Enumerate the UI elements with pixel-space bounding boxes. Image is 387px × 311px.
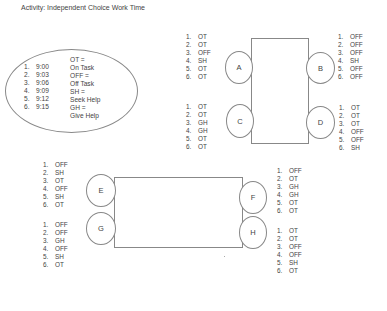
key-line: On Task — [70, 64, 100, 72]
obs-num: 5. — [277, 199, 289, 207]
scan-speck — [224, 256, 225, 257]
obs-code: OT — [289, 227, 298, 235]
seat-d: D — [306, 106, 335, 139]
obs-code: OT — [55, 201, 64, 209]
obs-num: 5. — [186, 65, 198, 73]
obs-code: SH — [55, 253, 64, 261]
obs-num: 6. — [186, 73, 198, 81]
obs-num: 6. — [186, 143, 198, 151]
obs-code: OT — [289, 199, 298, 207]
seat-h: H — [239, 216, 267, 249]
obs-num: 2. — [186, 41, 198, 49]
obs-num: 2. — [277, 175, 289, 183]
obs-code: SH — [350, 57, 359, 65]
obs-num: 3. — [277, 183, 289, 191]
time-row: 5.9:12 — [24, 95, 49, 103]
obs-code: SH — [55, 193, 64, 201]
obs-num: 6. — [43, 261, 55, 269]
obs-code: OFF — [350, 73, 363, 81]
obs-num: 3. — [338, 49, 350, 57]
time-num: 4. — [24, 87, 36, 95]
obs-code: OT — [289, 267, 298, 275]
time-row: 1.9:00 — [24, 63, 49, 71]
activity-title: Activity: Independent Choice Work Time — [21, 4, 145, 11]
obs-num: 3. — [186, 49, 198, 57]
obs-num: 4. — [186, 57, 198, 65]
time-num: 1. — [24, 63, 36, 71]
obs-code: SH — [351, 144, 360, 152]
obs-num: 4. — [43, 245, 55, 253]
obs-code: OFF — [351, 128, 364, 136]
obs-code: OT — [198, 73, 207, 81]
obs-code: OT — [351, 112, 360, 120]
time-value: 9:09 — [36, 87, 49, 95]
time-intervals-list: 1.9:00 2.9:03 3.9:06 4.9:09 5.9:12 6.9:1… — [24, 63, 49, 111]
obs-num: 1. — [339, 104, 351, 112]
obs-num: 4. — [277, 191, 289, 199]
obs-num: 2. — [338, 41, 350, 49]
obs-code: OT — [289, 175, 298, 183]
key-line: OFF = — [70, 72, 100, 80]
obs-code: OT — [198, 135, 207, 143]
obs-code: GH — [289, 191, 299, 199]
time-num: 3. — [24, 79, 36, 87]
obs-code: GH — [198, 127, 208, 135]
obs-code: OT — [198, 143, 207, 151]
obs-code: OT — [351, 104, 360, 112]
obs-code: OT — [351, 120, 360, 128]
obs-num: 2. — [339, 112, 351, 120]
obs-code: OFF — [55, 245, 68, 253]
obs-num: 4. — [339, 128, 351, 136]
obs-code: GH — [198, 119, 208, 127]
obs-num: 5. — [43, 193, 55, 201]
obs-num: 6. — [339, 144, 351, 152]
time-value: 9:12 — [36, 95, 49, 103]
obs-num: 2. — [277, 235, 289, 243]
obs-num: 3. — [43, 237, 55, 245]
obs-num: 1. — [43, 221, 55, 229]
obs-code: GH — [55, 237, 65, 245]
time-value: 9:15 — [36, 103, 49, 111]
time-value: 9:00 — [36, 63, 49, 71]
table-2 — [114, 177, 243, 248]
obs-num: 1. — [186, 103, 198, 111]
obs-code: SH — [289, 259, 298, 267]
obs-num: 6. — [277, 207, 289, 215]
code-key: OT = On Task OFF = Off Task SH = Seek He… — [70, 56, 100, 120]
time-num: 5. — [24, 95, 36, 103]
obs-num: 5. — [277, 259, 289, 267]
obs-code: OT — [198, 41, 207, 49]
seat-g: G — [86, 212, 116, 245]
obs-list-h: 1.OT 2.OT 3.OFF 4.OFF 5.SH 6.OT — [277, 227, 302, 275]
obs-num: 6. — [43, 201, 55, 209]
obs-code: OT — [289, 207, 298, 215]
key-line: Give Help — [70, 112, 100, 120]
obs-code: OT — [55, 177, 64, 185]
obs-list-g: 1.OFF 2.OFF 3.GH 4.OFF 5.SH 6.OT — [43, 221, 68, 269]
obs-num: 3. — [186, 119, 198, 127]
obs-code: OT — [55, 261, 64, 269]
seat-f: F — [239, 181, 267, 214]
obs-list-c: 1.OT 2.OT 3.GH 4.GH 5.OT 6.OT — [186, 103, 208, 151]
time-row: 4.9:09 — [24, 87, 49, 95]
obs-num: 5. — [339, 136, 351, 144]
key-line: OT = — [70, 56, 100, 64]
obs-num: 1. — [186, 33, 198, 41]
time-value: 9:03 — [36, 71, 49, 79]
key-line: GH = — [70, 104, 100, 112]
obs-code: OFF — [289, 167, 302, 175]
obs-num: 4. — [338, 57, 350, 65]
seat-c: C — [226, 104, 254, 138]
time-row: 3.9:06 — [24, 79, 49, 87]
obs-num: 2. — [43, 169, 55, 177]
obs-num: 2. — [186, 111, 198, 119]
obs-num: 3. — [339, 120, 351, 128]
obs-num: 6. — [338, 73, 350, 81]
obs-code: OFF — [289, 243, 302, 251]
obs-num: 5. — [186, 135, 198, 143]
obs-code: OT — [198, 103, 207, 111]
obs-num: 4. — [277, 251, 289, 259]
obs-code: OFF — [350, 65, 363, 73]
obs-code: OT — [198, 65, 207, 73]
obs-code: OFF — [350, 33, 363, 41]
